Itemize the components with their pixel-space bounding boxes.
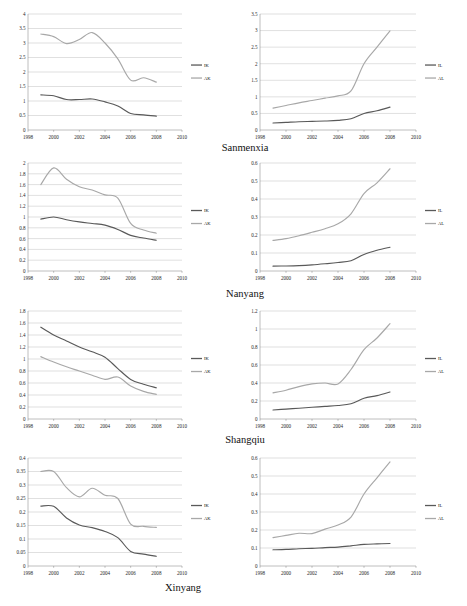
figure-page: { "figure": { "panel_label_suffix": "", … bbox=[0, 0, 467, 606]
legend-label-IK: IK bbox=[204, 356, 210, 361]
city-label-xinyang: Xinyang bbox=[118, 582, 248, 593]
x-tick-label: 2000 bbox=[49, 570, 60, 576]
y-tick-label: 0 bbox=[23, 127, 26, 133]
x-tick-label: 2006 bbox=[359, 134, 370, 140]
y-tick-label: 0 bbox=[23, 268, 26, 274]
y-tick-label: 0.05 bbox=[17, 549, 26, 555]
y-tick-label: 0.4 bbox=[251, 196, 258, 202]
y-tick-label: 1.5 bbox=[251, 77, 258, 83]
x-tick-label: 2000 bbox=[49, 275, 60, 281]
y-tick-label: 1.4 bbox=[19, 332, 26, 338]
y-tick-label: 0.2 bbox=[19, 257, 26, 263]
legend-label-IK: IK bbox=[204, 63, 210, 68]
line-chart-svg: 00.511.522.533.5199820002002200420062008… bbox=[236, 8, 464, 146]
y-tick-label: 0.4 bbox=[19, 392, 26, 398]
y-tick-label: 3 bbox=[255, 27, 258, 33]
y-tick-label: 0.6 bbox=[19, 380, 26, 386]
x-tick-label: 2010 bbox=[177, 275, 188, 281]
y-tick-label: 1 bbox=[255, 326, 258, 332]
legend-label-AL: AL bbox=[438, 369, 444, 374]
y-tick-label: 2 bbox=[23, 69, 26, 75]
x-tick-label: 2004 bbox=[100, 275, 111, 281]
legend-label-IK: IK bbox=[204, 503, 210, 508]
x-tick-label: 2002 bbox=[74, 423, 85, 429]
line-chart-svg: 00.20.40.60.811.21.41.61.821998200020022… bbox=[4, 157, 230, 287]
chart-panel-6: 00.050.10.150.20.250.30.350.419982000200… bbox=[4, 452, 230, 582]
line-chart-svg: 00.050.10.150.20.250.30.350.419982000200… bbox=[4, 452, 230, 582]
x-tick-label: 2010 bbox=[177, 423, 188, 429]
x-tick-label: 2000 bbox=[49, 134, 60, 140]
x-tick-label: 1998 bbox=[23, 134, 34, 140]
y-tick-label: 0.2 bbox=[251, 398, 258, 404]
x-tick-label: 2002 bbox=[307, 275, 318, 281]
y-tick-label: 0.8 bbox=[251, 344, 258, 350]
y-tick-label: 2 bbox=[23, 160, 26, 166]
y-tick-label: 0.5 bbox=[251, 473, 258, 479]
legend-label-AK: AK bbox=[204, 221, 211, 226]
chart-row2-left: 00.20.40.60.811.21.41.61.821998200020022… bbox=[4, 157, 230, 287]
series-line-AL bbox=[273, 462, 390, 538]
chart-panel-7: 00.10.20.30.40.50.6199820002002200420062… bbox=[236, 452, 464, 582]
y-tick-label: 0 bbox=[23, 416, 26, 422]
x-tick-label: 2008 bbox=[385, 134, 396, 140]
y-tick-label: 1 bbox=[255, 94, 258, 100]
series-line-AK bbox=[41, 470, 157, 527]
y-tick-label: 1.4 bbox=[19, 192, 26, 198]
line-chart-svg: 00.20.40.60.811.21.41.61.819982000200220… bbox=[4, 305, 230, 435]
series-line-AL bbox=[273, 324, 390, 393]
y-tick-label: 0.2 bbox=[251, 527, 258, 533]
legend-label-IL: IL bbox=[438, 503, 443, 508]
series-line-IK bbox=[41, 505, 157, 556]
y-tick-label: 0.6 bbox=[251, 160, 258, 166]
x-tick-label: 2008 bbox=[151, 275, 162, 281]
x-tick-label: 2004 bbox=[333, 275, 344, 281]
legend-label-AK: AK bbox=[204, 76, 211, 81]
x-tick-label: 2002 bbox=[307, 570, 318, 576]
y-tick-label: 0.6 bbox=[251, 455, 258, 461]
x-tick-label: 2002 bbox=[74, 570, 85, 576]
x-tick-label: 2000 bbox=[281, 570, 292, 576]
y-tick-label: 1.6 bbox=[19, 182, 26, 188]
x-tick-label: 2004 bbox=[333, 423, 344, 429]
line-chart-svg: 00.20.40.60.811.219982000200220042006200… bbox=[236, 305, 464, 435]
y-tick-label: 0.6 bbox=[251, 362, 258, 368]
y-tick-label: 0.3 bbox=[251, 214, 258, 220]
series-line-IL bbox=[273, 247, 390, 266]
x-tick-label: 2004 bbox=[333, 570, 344, 576]
y-tick-label: 0.3 bbox=[251, 509, 258, 515]
y-tick-label: 0.1 bbox=[19, 536, 26, 542]
x-tick-label: 1998 bbox=[23, 423, 34, 429]
y-tick-label: 1.8 bbox=[19, 171, 26, 177]
x-tick-label: 2006 bbox=[359, 275, 370, 281]
x-tick-label: 2002 bbox=[307, 134, 318, 140]
chart-grid: 00.511.522.533.5419982000200220042006200… bbox=[0, 0, 467, 606]
x-tick-label: 2010 bbox=[411, 275, 422, 281]
x-tick-label: 2006 bbox=[359, 423, 370, 429]
x-tick-label: 2006 bbox=[126, 423, 137, 429]
y-tick-label: 3 bbox=[23, 40, 26, 46]
y-tick-label: 0.2 bbox=[19, 509, 26, 515]
x-tick-label: 2004 bbox=[100, 134, 111, 140]
y-tick-label: 0.4 bbox=[251, 491, 258, 497]
legend-label-AK: AK bbox=[204, 369, 211, 374]
series-line-IL bbox=[273, 544, 390, 550]
x-tick-label: 2000 bbox=[281, 134, 292, 140]
x-tick-label: 2006 bbox=[126, 134, 137, 140]
x-tick-label: 2010 bbox=[411, 134, 422, 140]
y-tick-label: 0.8 bbox=[19, 368, 26, 374]
x-tick-label: 1998 bbox=[255, 134, 266, 140]
y-tick-label: 2 bbox=[255, 61, 258, 67]
x-tick-label: 2000 bbox=[49, 423, 60, 429]
series-line-AK bbox=[41, 168, 157, 233]
y-tick-label: 2.5 bbox=[251, 44, 258, 50]
y-tick-label: 1.5 bbox=[19, 83, 26, 89]
y-tick-label: 0 bbox=[255, 416, 258, 422]
x-tick-label: 2004 bbox=[333, 134, 344, 140]
chart-row1-left: 00.511.522.533.5419982000200220042006200… bbox=[4, 8, 230, 146]
y-tick-label: 1.6 bbox=[19, 320, 26, 326]
x-tick-label: 2010 bbox=[411, 570, 422, 576]
y-tick-label: 0.5 bbox=[19, 112, 26, 118]
x-tick-label: 2008 bbox=[151, 423, 162, 429]
y-tick-label: 1.2 bbox=[19, 344, 26, 350]
y-tick-label: 1 bbox=[23, 356, 26, 362]
